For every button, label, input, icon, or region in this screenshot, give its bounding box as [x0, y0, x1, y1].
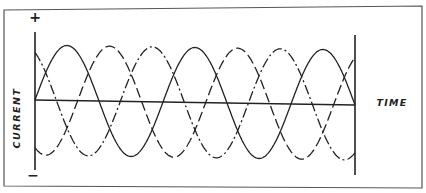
three-phase-current-diagram: + − CURRENT TIME	[0, 0, 426, 193]
y-axis-label: CURRENT	[11, 88, 22, 149]
time-axis	[35, 100, 355, 105]
x-axis-label: TIME	[377, 97, 408, 108]
positive-sign: +	[29, 9, 41, 25]
negative-sign: −	[27, 167, 39, 183]
frame-border	[4, 6, 422, 188]
